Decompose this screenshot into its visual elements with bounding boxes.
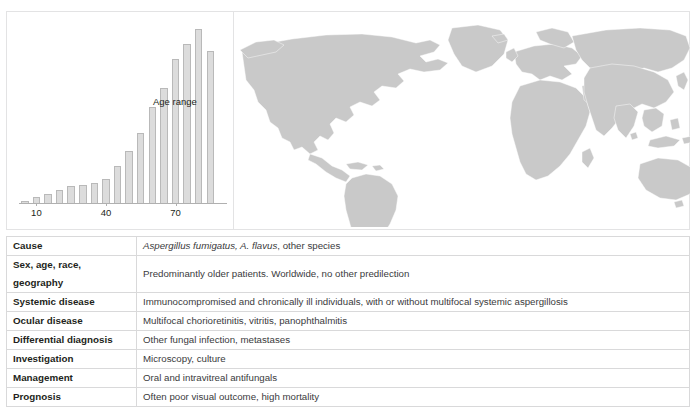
x-axis-tick (36, 203, 37, 206)
bar-slot (123, 18, 135, 203)
bar (183, 44, 191, 203)
bar (125, 151, 133, 203)
x-axis-line (19, 203, 227, 204)
bar-slot (100, 18, 112, 203)
table-row-label: Systemic disease (7, 293, 137, 312)
disease-summary-table: CauseAspergillus fumigatus, A. flavus, o… (6, 236, 690, 407)
bar (44, 194, 52, 203)
x-axis-tick-label: 40 (94, 207, 118, 218)
bar (67, 186, 75, 203)
table-row: Systemic diseaseImmunocompromised and ch… (7, 293, 690, 312)
table-row: InvestigationMicroscopy, culture (7, 350, 690, 369)
bar-slot (65, 18, 77, 203)
bar-slot (31, 18, 43, 203)
bar-slot (193, 18, 205, 203)
bar-slot (112, 18, 124, 203)
world-map-svg (234, 14, 690, 227)
table-row: PrognosisOften poor visual outcome, high… (7, 388, 690, 407)
bar-slot (181, 18, 193, 203)
chart-annotation-label: Age range (153, 96, 197, 107)
bar (79, 185, 87, 204)
bar-slot (54, 18, 66, 203)
table-row-value: Multifocal chorioretinitis, vitritis, pa… (137, 312, 690, 331)
bar-slot (42, 18, 54, 203)
table-row: ManagementOral and intravitreal antifung… (7, 369, 690, 388)
bar-slot (147, 18, 159, 203)
age-range-bar-chart: 104070 Age range (7, 12, 233, 229)
world-map (234, 12, 690, 229)
bar (102, 179, 110, 203)
bar-slot (135, 18, 147, 203)
table-row-value: Other fungal infection, metastases (137, 331, 690, 350)
table-row-value: Often poor visual outcome, high mortalit… (137, 388, 690, 407)
bar-slot (205, 18, 217, 203)
table-row-label: Sex, age, race, geography (7, 256, 137, 293)
bar (114, 166, 122, 203)
bar-slot (89, 18, 101, 203)
table-row-value: Microscopy, culture (137, 350, 690, 369)
table-row: CauseAspergillus fumigatus, A. flavus, o… (7, 237, 690, 256)
x-axis-tick (106, 203, 107, 206)
table-row-label: Ocular disease (7, 312, 137, 331)
table-row-value: Oral and intravitreal antifungals (137, 369, 690, 388)
bar (137, 133, 145, 203)
bar-slot (19, 18, 31, 203)
bar (56, 190, 64, 203)
table-row: Differential diagnosisOther fungal infec… (7, 331, 690, 350)
bar (91, 183, 99, 203)
table-row-label: Investigation (7, 350, 137, 369)
bar-series (19, 18, 225, 203)
chart-plot-area (19, 18, 225, 203)
x-axis-tick-label: 70 (164, 207, 188, 218)
x-axis-tick (176, 203, 177, 206)
table-body: CauseAspergillus fumigatus, A. flavus, o… (7, 237, 690, 407)
table-row: Ocular diseaseMultifocal chorioretinitis… (7, 312, 690, 331)
table-row: Sex, age, race, geographyPredominantly o… (7, 256, 690, 293)
table-row-label: Differential diagnosis (7, 331, 137, 350)
table-row-label: Cause (7, 237, 137, 256)
bar (172, 59, 180, 203)
bar (195, 29, 203, 203)
table-row-value: Predominantly older patients. Worldwide,… (137, 256, 690, 293)
x-axis-tick-label: 10 (24, 207, 48, 218)
bar-slot (170, 18, 182, 203)
bar-slot (158, 18, 170, 203)
table-row-label: Prognosis (7, 388, 137, 407)
table-row-label: Management (7, 369, 137, 388)
table-row-value: Immunocompromised and chronically ill in… (137, 293, 690, 312)
bar (149, 107, 157, 203)
table-row-value: Aspergillus fumigatus, A. flavus, other … (137, 237, 690, 256)
bar (207, 51, 215, 203)
map-landmasses (240, 25, 690, 227)
top-panel: 104070 Age range (6, 11, 690, 230)
bar-slot (77, 18, 89, 203)
